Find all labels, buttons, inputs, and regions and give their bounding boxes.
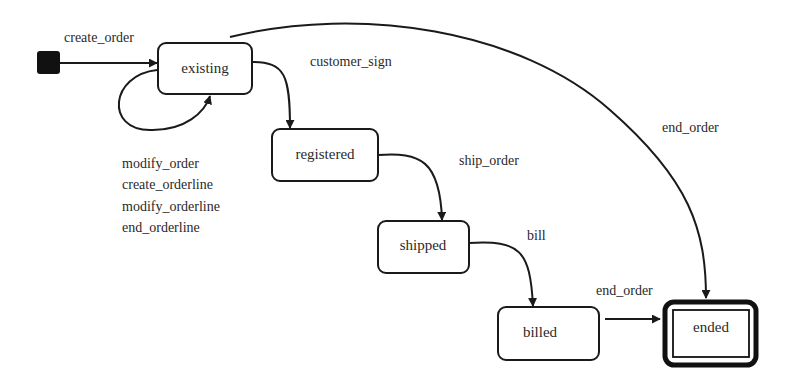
state-existing-label: existing: [181, 60, 229, 76]
state-ended-label: ended: [693, 319, 729, 335]
label-end-order-existing: end_order: [662, 120, 719, 135]
state-registered[interactable]: registered: [272, 129, 378, 181]
label-create-order: create_order: [64, 30, 134, 45]
state-ended-final[interactable]: ended: [665, 302, 756, 365]
label-create-orderline: create_orderline: [122, 177, 213, 192]
edge-customer-sign: [252, 62, 290, 128]
label-modify-orderline: modify_orderline: [122, 199, 220, 214]
state-existing[interactable]: existing: [158, 43, 252, 94]
state-billed-label: billed: [523, 324, 558, 340]
state-diagram: existing registered shipped billed ended…: [0, 0, 792, 383]
state-billed[interactable]: billed: [498, 307, 599, 360]
label-end-order-billed: end_order: [596, 283, 653, 298]
initial-state-marker: [37, 51, 60, 74]
state-registered-label: registered: [295, 146, 355, 162]
label-end-orderline: end_orderline: [122, 220, 200, 235]
edge-bill: [469, 243, 533, 306]
label-customer-sign: customer_sign: [310, 54, 392, 69]
state-shipped-label: shipped: [400, 237, 447, 253]
edge-ship-order: [378, 154, 442, 220]
label-modify-order: modify_order: [122, 156, 199, 171]
self-loop-labels: modify_order create_orderline modify_ord…: [122, 156, 220, 235]
label-bill: bill: [527, 228, 546, 243]
state-shipped[interactable]: shipped: [378, 221, 469, 273]
label-ship-order: ship_order: [459, 153, 519, 168]
